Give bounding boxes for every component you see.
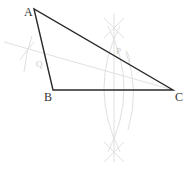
vertex-label-b: B [44, 90, 52, 104]
construction-label-p: P [116, 46, 121, 56]
arc-from-b [108, 26, 124, 152]
construction-line-through-q [4, 42, 173, 90]
triangle-edges [34, 9, 173, 90]
arc-near-ab-1 [24, 36, 32, 72]
construction-label-q: Q [36, 59, 43, 69]
vertex-label-a: A [24, 5, 33, 19]
construction-lines [4, 13, 173, 162]
triangle-abc [34, 9, 173, 90]
vertex-label-c: C [175, 90, 183, 104]
triangle-diagram: A B C Q P [0, 0, 190, 170]
arc-from-c [104, 26, 120, 152]
